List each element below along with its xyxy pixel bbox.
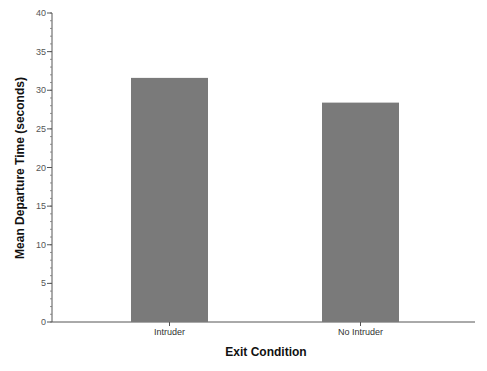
bars [131, 78, 399, 322]
bar [322, 103, 399, 322]
y-tick-label: 20 [36, 163, 46, 173]
y-axis-title: Mean Departure Time (seconds) [13, 77, 27, 259]
y-tick-label: 35 [36, 47, 46, 57]
y-tick-label: 10 [36, 240, 46, 250]
x-category-label: Intruder [154, 327, 185, 337]
y-tick-label: 15 [36, 201, 46, 211]
y-axis: 0510152025303540 [36, 8, 52, 327]
x-axis-title: Exit Condition [225, 345, 306, 359]
y-tick-label: 0 [41, 317, 46, 327]
x-axis: IntruderNo Intruder [52, 322, 475, 337]
bar-chart: 0510152025303540 IntruderNo Intruder Mea… [0, 0, 487, 371]
y-tick-label: 40 [36, 8, 46, 18]
bar [131, 78, 208, 322]
y-tick-label: 30 [36, 85, 46, 95]
y-tick-label: 25 [36, 124, 46, 134]
y-tick-label: 5 [41, 278, 46, 288]
x-category-label: No Intruder [338, 327, 383, 337]
